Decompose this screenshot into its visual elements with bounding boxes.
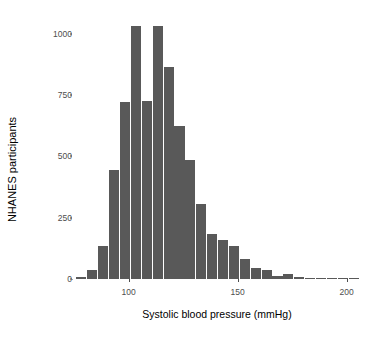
histogram-bar	[174, 126, 184, 279]
x-tick-mark	[347, 279, 348, 282]
y-axis-ticks: 02505007501000	[24, 0, 72, 339]
histogram-bar	[251, 268, 261, 279]
histogram-bar	[294, 277, 304, 279]
histogram-bar	[196, 204, 206, 279]
histogram-bar	[327, 278, 337, 279]
histogram-bar	[305, 278, 315, 279]
histogram-bar	[272, 276, 282, 279]
histogram-bar	[262, 270, 272, 279]
x-tick-label: 100	[109, 287, 149, 297]
histogram-bar	[316, 278, 326, 279]
histogram-chart: NHANES participants 02505007501000 Systo…	[0, 0, 371, 339]
x-tick-mark	[238, 279, 239, 282]
x-tick-mark	[129, 279, 130, 282]
y-tick-label: 1000	[32, 29, 72, 39]
histogram-bar	[349, 278, 359, 279]
histogram-bar	[98, 246, 108, 279]
y-tick-label: 250	[32, 213, 72, 223]
histogram-bar	[142, 101, 152, 279]
y-tick-label: 0	[32, 274, 72, 284]
histogram-bar	[131, 26, 141, 279]
y-tick-label: 500	[32, 151, 72, 161]
histogram-bar	[207, 234, 217, 279]
histogram-bar	[164, 67, 174, 279]
y-axis-title: NHANES participants	[0, 0, 24, 339]
histogram-bar	[153, 26, 163, 279]
histogram-bar	[109, 170, 119, 279]
histogram-bar	[76, 277, 86, 279]
x-axis-title: Systolic blood pressure (mmHg)	[72, 308, 362, 320]
histogram-bar	[218, 240, 228, 279]
histogram-bar	[283, 274, 293, 279]
histogram-bar	[229, 246, 239, 279]
x-tick-label: 150	[218, 287, 258, 297]
histogram-bar	[120, 102, 130, 279]
plot-panel	[72, 14, 364, 279]
histogram-bar	[240, 259, 250, 279]
histogram-bar	[87, 270, 97, 279]
histogram-bar	[185, 160, 195, 279]
x-tick-label: 200	[327, 287, 367, 297]
y-tick-label: 750	[32, 90, 72, 100]
